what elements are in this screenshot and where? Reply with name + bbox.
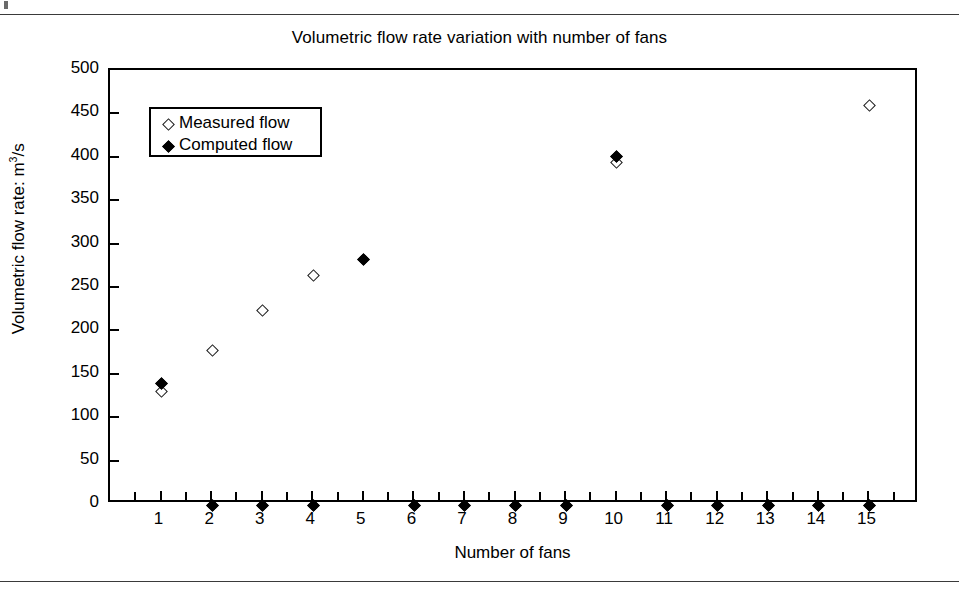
y-axis-tick-mark: [110, 329, 119, 331]
chart-figure: Volumetric flow rate variation with numb…: [0, 18, 959, 578]
x-axis-tick-label: 13: [745, 510, 785, 528]
x-axis-tick-mark: [362, 491, 364, 500]
x-axis-minor-tick-mark: [690, 492, 692, 500]
y-axis-tick-mark: [110, 199, 119, 201]
x-axis-tick-label: 1: [139, 510, 179, 528]
legend-item-label: Measured flow: [179, 114, 290, 132]
y-axis-tick-label: 100: [39, 406, 99, 423]
y-axis-tick-label: 150: [39, 363, 99, 380]
y-axis-tick-label: 300: [39, 233, 99, 250]
y-axis-tick-label: 50: [39, 450, 99, 467]
x-axis-tick-label: 10: [594, 510, 634, 528]
y-axis-tick-mark: [110, 373, 119, 375]
x-axis-minor-tick-mark: [842, 492, 844, 500]
x-axis-minor-tick-mark: [438, 492, 440, 500]
y-axis-label-exponent: 3: [7, 157, 19, 163]
x-axis-minor-tick-mark: [893, 492, 895, 500]
x-axis-minor-tick-mark: [337, 492, 339, 500]
page-rule-bottom: [0, 581, 959, 582]
plot-area: Measured flow Computed flow: [108, 68, 917, 502]
x-axis-tick-label: 15: [846, 510, 886, 528]
x-axis-tick-label: 6: [391, 510, 431, 528]
y-axis-tick-label: 250: [39, 276, 99, 293]
y-axis-label: Volumetric flow rate: m3/s: [7, 0, 29, 539]
legend-item-label: Computed flow: [179, 136, 292, 154]
x-axis-tick-label: 11: [644, 510, 684, 528]
x-axis-minor-tick-mark: [387, 492, 389, 500]
x-axis-minor-tick-mark: [488, 492, 490, 500]
y-axis-tick-mark: [110, 416, 119, 418]
chart-legend: Measured flow Computed flow: [149, 107, 322, 157]
y-axis-tick-mark: [110, 243, 119, 245]
x-axis-minor-tick-mark: [185, 492, 187, 500]
x-axis-tick-mark: [160, 491, 162, 500]
y-axis-tick-mark: [110, 112, 119, 114]
x-axis-tick-label: 9: [543, 510, 583, 528]
y-axis-tick-label: 500: [39, 59, 99, 76]
page-rule-top: [0, 14, 959, 15]
x-axis-minor-tick-mark: [134, 492, 136, 500]
x-axis-tick-mark: [615, 491, 617, 500]
x-axis-tick-label: 3: [240, 510, 280, 528]
x-axis-tick-label: 2: [189, 510, 229, 528]
y-axis-tick-mark: [110, 460, 119, 462]
x-axis-tick-label: 12: [695, 510, 735, 528]
y-axis-tick-mark: [110, 156, 119, 158]
x-axis-minor-tick-mark: [792, 492, 794, 500]
x-axis-minor-tick-mark: [539, 492, 541, 500]
x-axis-minor-tick-mark: [589, 492, 591, 500]
x-axis-minor-tick-mark: [235, 492, 237, 500]
legend-item: Measured flow: [160, 112, 320, 134]
x-axis-minor-tick-mark: [286, 492, 288, 500]
y-axis-tick-label: 400: [39, 146, 99, 163]
x-axis-minor-tick-mark: [640, 492, 642, 500]
x-axis-tick-label: 7: [442, 510, 482, 528]
x-axis-tick-label: 14: [796, 510, 836, 528]
filled-diamond-icon: [160, 138, 174, 152]
x-axis-tick-label: 5: [341, 510, 381, 528]
y-axis-tick-label: 0: [39, 493, 99, 510]
x-axis-tick-label: 8: [493, 510, 533, 528]
y-axis-tick-label: 450: [39, 102, 99, 119]
x-axis-tick-label: 4: [290, 510, 330, 528]
y-axis-tick-label: 350: [39, 189, 99, 206]
y-axis-label-prefix: Volumetric flow rate: m: [9, 162, 28, 334]
x-axis-label: Number of fans: [108, 543, 917, 563]
y-axis-tick-label: 200: [39, 319, 99, 336]
legend-item: Computed flow: [160, 134, 320, 156]
x-axis-minor-tick-mark: [741, 492, 743, 500]
chart-title: Volumetric flow rate variation with numb…: [0, 28, 959, 48]
open-diamond-icon: [160, 116, 174, 130]
plot-inner: Measured flow Computed flow: [110, 70, 915, 500]
y-axis-label-suffix: /s: [9, 143, 28, 156]
y-axis-tick-mark: [110, 286, 119, 288]
